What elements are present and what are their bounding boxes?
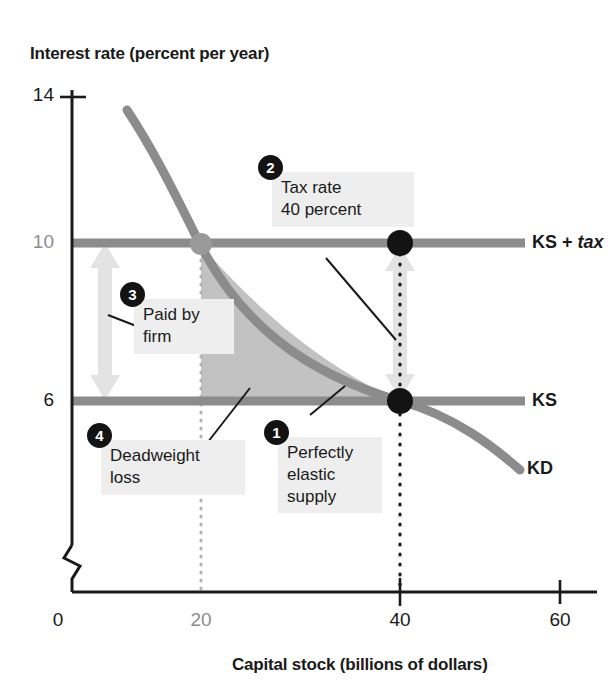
y-axis-title: Interest rate (percent per year) [30, 44, 269, 64]
x-axis-title: Capital stock (billions of dollars) [232, 655, 488, 675]
curve-label-kd: KD [527, 458, 553, 479]
plot-area [0, 0, 608, 700]
x-tick-label-60: 60 [544, 609, 576, 631]
callout-perfectly-elastic-supply: Perfectly elastic supply [278, 437, 382, 513]
marker-no-tax-equilibrium [190, 233, 212, 255]
kd-curve [127, 110, 520, 470]
curve-label-ks: KS [532, 390, 557, 411]
callout-paid-by-firm: Paid by firm [134, 299, 234, 354]
paid-by-firm-arrow [90, 243, 120, 400]
y-tick-label-10: 10 [14, 231, 54, 253]
callout-tax-rate: Tax rate 40 percent [272, 172, 414, 227]
y-tick-label-14: 14 [14, 84, 54, 106]
x-tick-label-20: 20 [185, 609, 217, 631]
callout-deadweight-loss: Deadweight loss [101, 440, 245, 495]
callout-badge-1: 1 [264, 420, 289, 445]
x-tick-label-40: 40 [384, 609, 416, 631]
marker-tax-net-point [387, 388, 413, 414]
y-tick-label-6: 6 [14, 389, 54, 411]
callout-badge-4: 4 [87, 423, 112, 448]
x-tick-label-0: 0 [44, 609, 72, 631]
callout-badge-2: 2 [258, 155, 283, 180]
ks-plus-tax-text: KS + [532, 232, 578, 252]
curve-label-ks-plus-tax: KS + tax [532, 232, 604, 253]
ks-plus-tax-italic-text: tax [578, 232, 604, 252]
axis-break-symbol [64, 545, 80, 592]
callout-badge-3: 3 [120, 282, 145, 307]
marker-tax-gross-point [387, 230, 413, 256]
figure-canvas: Interest rate (percent per year) Capital… [0, 0, 608, 700]
